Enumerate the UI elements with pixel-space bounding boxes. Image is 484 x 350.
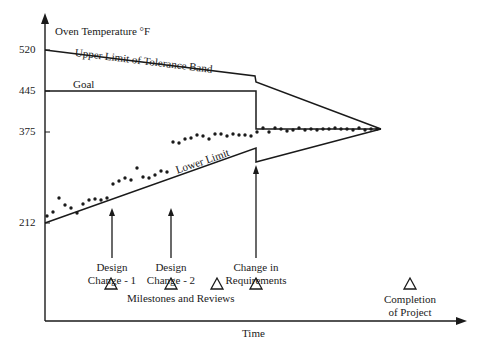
milestones-label: Milestones and Reviews: [127, 292, 235, 305]
data-point: [255, 130, 258, 133]
data-point: [129, 178, 132, 181]
data-point: [165, 170, 168, 173]
design-change-1-line1: Design: [82, 261, 142, 274]
design-change-1-label: Design Change - 1: [82, 261, 142, 287]
data-point: [111, 182, 114, 185]
change-in-requirements-label: Change in Requirements: [221, 261, 291, 287]
upper-limit-line: [45, 50, 381, 129]
data-point: [63, 203, 66, 206]
data-point: [249, 134, 252, 137]
data-point: [135, 166, 138, 169]
design-change-2-line1: Design: [141, 261, 201, 274]
data-point: [333, 126, 336, 129]
data-point: [231, 132, 234, 135]
goal-label: Goal: [73, 78, 94, 91]
data-point: [369, 127, 372, 130]
change-in-requirements-line2: Requirements: [221, 274, 291, 287]
completion-line1: Completion: [378, 293, 442, 306]
data-point: [141, 175, 144, 178]
x-axis-title: Time: [242, 327, 265, 340]
data-point: [279, 127, 282, 130]
data-point: [213, 132, 216, 135]
data-point: [345, 127, 348, 130]
data-point: [93, 197, 96, 200]
data-point: [75, 211, 78, 214]
tick-label-520: 520: [19, 43, 36, 56]
y-axis-title: Oven Temperature °F: [55, 25, 150, 38]
data-point: [273, 126, 276, 129]
data-point: [201, 134, 204, 137]
arrow-up-icon: [168, 208, 174, 216]
design-change-2-label: Design Change - 2: [141, 261, 201, 287]
tick-label-212: 212: [19, 216, 36, 229]
data-point: [321, 127, 324, 130]
completion-triangle-icon: [404, 278, 416, 289]
data-point: [189, 136, 192, 139]
data-point: [207, 137, 210, 140]
data-point: [339, 127, 342, 130]
data-point: [297, 126, 300, 129]
data-point: [123, 176, 126, 179]
data-point: [219, 132, 222, 135]
data-point: [261, 126, 264, 129]
data-point: [171, 140, 174, 143]
arrow-up-icon: [253, 165, 259, 174]
data-point: [87, 198, 90, 201]
data-point: [147, 176, 150, 179]
design-change-2-line2: Change - 2: [141, 274, 201, 287]
data-point: [315, 128, 318, 131]
data-point: [51, 210, 54, 213]
data-point: [351, 128, 354, 131]
data-point: [225, 134, 228, 137]
x-axis-arrow-icon: [456, 317, 467, 325]
data-point: [375, 127, 378, 130]
y-axis-arrow-icon: [41, 13, 49, 24]
data-point: [177, 141, 180, 144]
data-point: [57, 196, 60, 199]
data-point: [363, 128, 366, 131]
design-change-1-line2: Change - 1: [82, 274, 142, 287]
completion-line2: of Project: [378, 306, 442, 319]
data-point: [159, 169, 162, 172]
y-axis: [41, 13, 50, 321]
data-point: [99, 198, 102, 201]
data-point: [105, 196, 108, 199]
data-point: [69, 206, 72, 209]
data-point: [267, 130, 270, 133]
tick-label-375: 375: [19, 125, 36, 138]
tick-label-445: 445: [19, 84, 36, 97]
data-point: [81, 202, 84, 205]
arrow-up-icon: [109, 208, 115, 216]
data-point: [243, 133, 246, 136]
completion-label: Completion of Project: [378, 293, 442, 319]
lower-limit-line: [45, 129, 381, 223]
data-point: [357, 126, 360, 129]
data-point: [285, 129, 288, 132]
data-point: [327, 127, 330, 130]
change-in-requirements-line1: Change in: [221, 261, 291, 274]
data-point: [237, 133, 240, 136]
data-point: [195, 133, 198, 136]
data-point: [183, 137, 186, 140]
data-point: [303, 128, 306, 131]
data-point: [309, 127, 312, 130]
data-point: [291, 128, 294, 131]
data-point: [45, 214, 48, 217]
data-point: [153, 173, 156, 176]
measured-points: [45, 126, 378, 217]
data-point: [117, 179, 120, 182]
